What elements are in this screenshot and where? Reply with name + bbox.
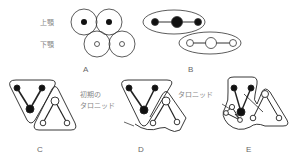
- panel-b: [143, 10, 241, 54]
- panel-label-b: B: [188, 65, 193, 74]
- panel-label-a: A: [83, 65, 89, 74]
- upper-jaw-label: 上顎: [40, 18, 54, 27]
- panel-label-e: E: [246, 145, 251, 154]
- panel-a: [71, 9, 135, 57]
- taronid-label: タロニッド: [178, 90, 213, 99]
- panel-c: [10, 80, 76, 130]
- early-taronid-label-line1: 初期の: [80, 90, 101, 99]
- lower-jaw-label: 下顎: [40, 41, 54, 49]
- tooth-evolution-diagram: 上顎 下顎 A B C: [0, 0, 289, 157]
- panel-d: [122, 80, 186, 132]
- panel-label-d: D: [138, 145, 144, 154]
- panel-label-c: C: [37, 145, 43, 154]
- panel-e: [222, 77, 288, 129]
- early-taronid-label-line2: タロニッド: [80, 101, 115, 110]
